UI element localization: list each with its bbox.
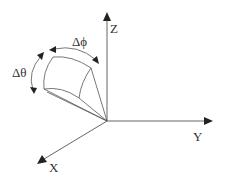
z-axis-label: Z: [110, 21, 118, 36]
surface-patch: [44, 57, 107, 121]
x-axis-label: X: [49, 160, 59, 175]
x-axis: X: [37, 121, 107, 175]
delta-phi-label: Δϕ: [72, 34, 87, 49]
delta-theta-bottom-arrowhead-icon: [30, 87, 37, 94]
z-axis: Z: [103, 12, 118, 121]
y-axis-label: Y: [193, 129, 203, 144]
delta-theta-label: Δθ: [12, 65, 27, 80]
y-arrowhead-icon: [204, 117, 213, 125]
y-axis: Y: [107, 117, 213, 144]
delta-theta-top-arrowhead-icon: [37, 52, 44, 60]
coordinate-diagram: Z Y X Δϕ Δθ: [0, 0, 225, 183]
delta-phi-left-arrowhead-icon: [49, 46, 56, 53]
x-arrowhead-icon: [37, 155, 47, 164]
z-arrowhead-icon: [103, 12, 111, 21]
delta-theta-arrow: Δθ: [12, 52, 44, 94]
